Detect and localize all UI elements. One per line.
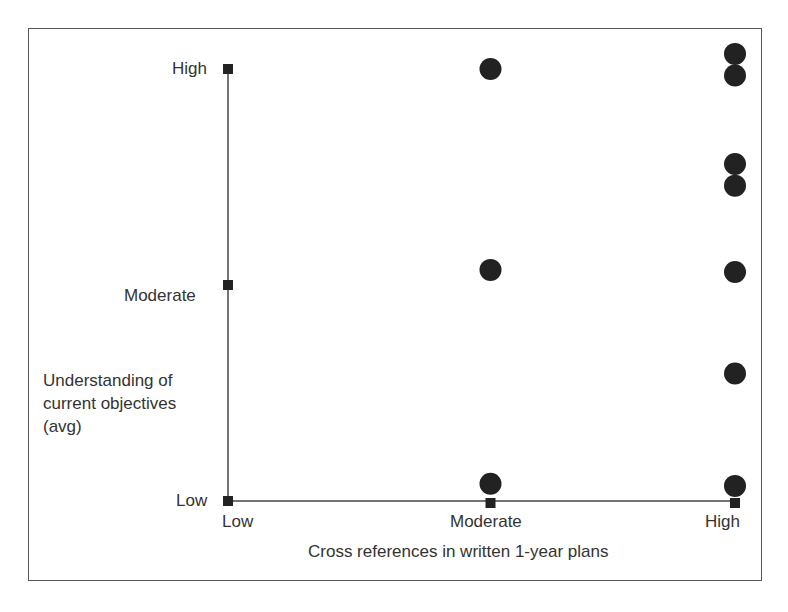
data-point <box>724 475 746 497</box>
data-point <box>724 153 746 175</box>
data-point <box>724 43 746 65</box>
x-tick-marker <box>486 498 496 508</box>
data-point <box>480 473 502 495</box>
x-tick-marker <box>730 498 740 508</box>
y-axis-label-line3: (avg) <box>43 417 82 437</box>
data-point <box>724 175 746 197</box>
data-point <box>480 259 502 281</box>
x-tick-moderate: Moderate <box>450 512 522 532</box>
x-tick-low: Low <box>222 512 253 532</box>
scatter-plot <box>0 0 788 612</box>
y-tick-low: Low <box>176 491 207 511</box>
data-point <box>724 363 746 385</box>
y-tick-marker <box>223 280 233 290</box>
x-axis-label: Cross references in written 1-year plans <box>308 542 608 562</box>
y-tick-moderate: Moderate <box>124 286 196 306</box>
y-axis-label-line1: Understanding of <box>43 371 172 391</box>
y-tick-marker <box>223 64 233 74</box>
y-tick-marker <box>223 496 233 506</box>
data-point <box>724 261 746 283</box>
data-point <box>724 64 746 86</box>
data-point <box>480 58 502 80</box>
y-tick-high: High <box>172 59 207 79</box>
x-tick-high: High <box>705 512 740 532</box>
y-axis-label-line2: current objectives <box>43 394 176 414</box>
